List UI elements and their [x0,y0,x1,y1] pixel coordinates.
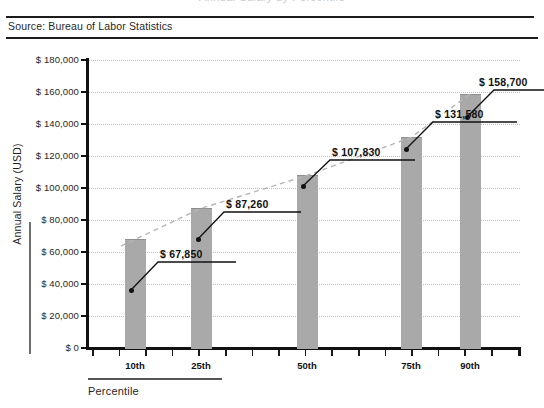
x-axis-minor-tick [198,350,200,356]
chart-canvas: Annual Salary by Percentile Source: Bure… [0,0,544,408]
y-axis-tick-label: $ 160,000 [36,86,79,97]
callout-anchor-dot [196,237,201,242]
y-axis-tick-label: $ 20,000 [41,310,79,321]
bar-90th[interactable] [460,94,481,349]
callout-anchor-dot [301,184,306,189]
gridline [89,60,520,61]
x-axis-minor-tick [331,350,333,356]
x-axis-minor-tick [225,350,227,356]
x-axis-minor-tick [305,350,307,356]
data-label-10th: $ 67,850 [160,248,202,260]
x-axis-minor-tick [518,350,520,356]
x-axis-minor-tick [464,350,466,356]
y-axis-title-rule [29,222,31,354]
x-axis-minor-tick [92,350,94,356]
y-axis-tick-label: $ 120,000 [36,150,79,161]
data-label-90th: $ 158,700 [479,76,528,88]
bar-75th[interactable] [401,137,422,349]
callout-anchor-dot [129,288,134,293]
x-axis-minor-tick [438,350,440,356]
x-axis-minor-tick [358,350,360,356]
data-label-50th: $ 107,830 [332,146,381,158]
plot-area [89,60,520,348]
y-axis-tick-label: $ 180,000 [36,54,79,65]
y-axis-tick-label: $ 80,000 [41,214,79,225]
callout-anchor-dot [404,147,409,152]
x-axis-minor-tick [252,350,254,356]
bar-25th[interactable] [191,208,212,349]
source-caption: Source: Bureau of Labor Statistics [8,20,172,32]
clipped-chart-title: Annual Salary by Percentile [0,0,544,3]
gridline [89,156,520,157]
x-axis-title: Percentile [88,385,139,397]
top-divider-rule [6,16,534,18]
x-axis-minor-tick [119,350,121,356]
y-axis-tick-label: $ 0 [65,342,79,353]
data-label-25th: $ 87,260 [226,198,268,210]
y-axis-tick-label: $ 40,000 [41,278,79,289]
gridline [89,92,520,93]
x-axis-label-25th: 25th [191,360,211,371]
x-axis-minor-tick [172,350,174,356]
bottom-divider-rule [6,37,538,39]
data-label-75th: $ 131,580 [435,108,484,120]
x-axis-minor-tick [491,350,493,356]
y-axis-tick-label: $ 60,000 [41,246,79,257]
x-axis-label-75th: 75th [401,360,421,371]
x-axis-minor-tick [145,350,147,356]
x-axis-minor-tick [385,350,387,356]
gridline [89,124,520,125]
y-axis-tick-label: $ 140,000 [36,118,79,129]
bar-50th[interactable] [297,175,318,349]
x-axis-label-90th: 90th [460,360,480,371]
y-axis-tick-label: $ 100,000 [36,182,79,193]
x-axis-minor-tick [411,350,413,356]
x-axis-label-50th: 50th [297,360,317,371]
x-axis-title-rule [88,378,222,380]
x-axis-minor-tick [278,350,280,356]
bar-10th[interactable] [125,239,146,349]
callout-anchor-dot [465,115,470,120]
x-axis-label-10th: 10th [125,360,145,371]
